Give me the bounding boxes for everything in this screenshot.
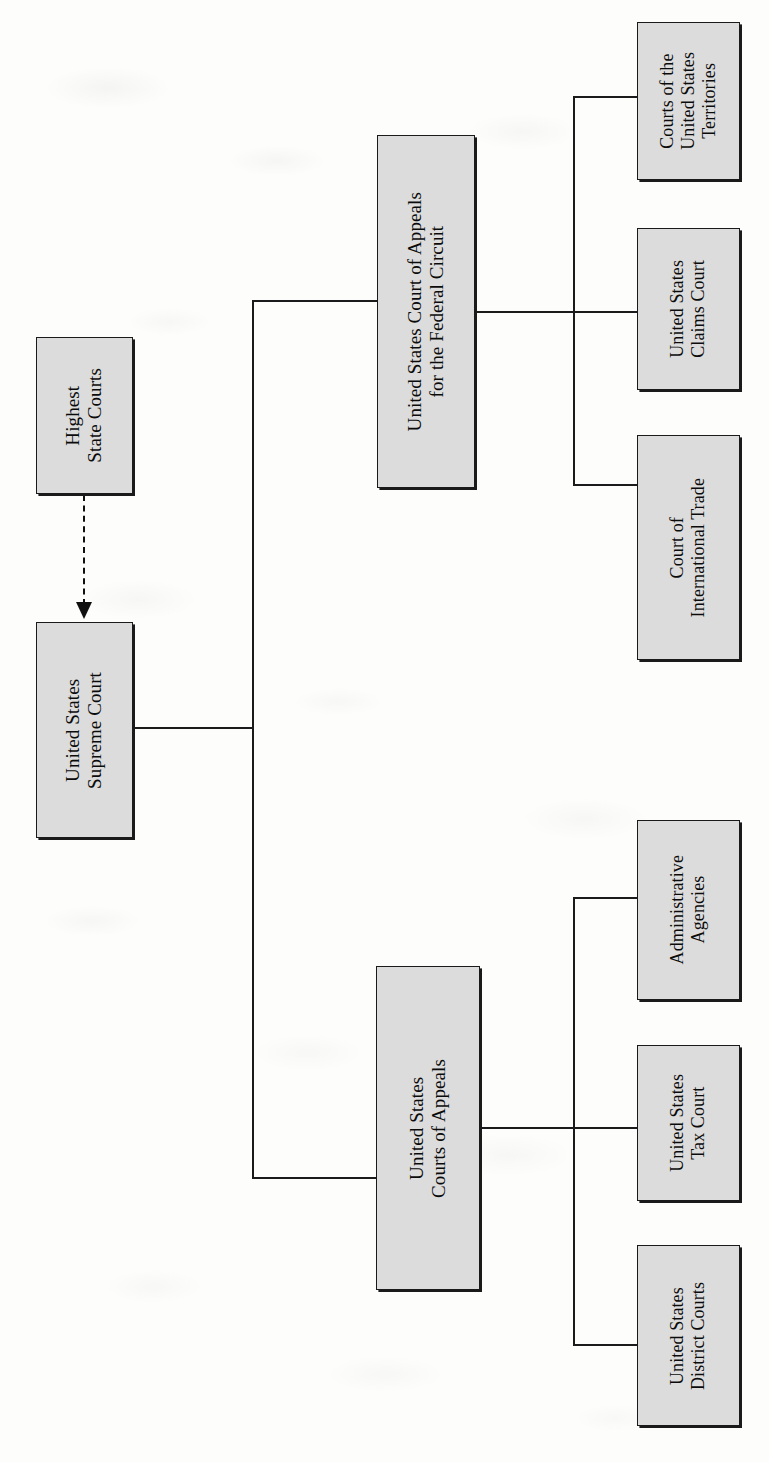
node-label: Highest State Courts [62,368,107,463]
node-label: United States Court of Appeals for the F… [404,192,449,431]
connector-bus-to-international-trade [573,484,638,486]
node-us-courts-of-appeals[interactable]: United States Courts of Appeals [376,966,480,1290]
node-label: Administrative Agencies [667,855,709,964]
connector-bus-to-administrative-agencies [573,897,638,899]
connector-upper-right-bus [573,96,575,486]
connector-bus-to-claims-court [573,311,638,313]
connector-trunk-to-courts-of-appeals [252,1177,378,1179]
node-us-tax-court[interactable]: United States Tax Court [637,1045,740,1201]
connector-trunk-to-federal-circuit [252,300,378,302]
node-highest-state-courts[interactable]: Highest State Courts [36,337,133,494]
node-us-supreme-court[interactable]: United States Supreme Court [36,622,133,838]
node-us-claims-court[interactable]: United States Claims Court [637,228,740,390]
node-court-of-international-trade[interactable]: Court of International Trade [637,435,740,660]
arrow-head-icon [76,602,92,619]
node-us-district-courts[interactable]: United States District Courts [637,1245,740,1426]
node-label: United States District Courts [667,1282,709,1390]
connector-state-to-supreme-dashed [83,495,85,605]
connector-bus-to-district-courts [573,1344,638,1346]
connector-supreme-to-trunk [133,727,254,729]
node-label: Court of International Trade [667,478,709,617]
court-system-diagram: Highest State Courts United States Supre… [0,0,769,1462]
node-administrative-agencies[interactable]: Administrative Agencies [637,820,740,1000]
connector-bus-to-tax-court [573,1127,638,1129]
connector-lower-right-bus [573,897,575,1346]
node-label: United States Courts of Appeals [406,1059,451,1198]
node-label: United States Supreme Court [62,672,107,789]
node-courts-of-us-territories[interactable]: Courts of the United States Territories [637,22,740,180]
node-federal-circuit-court-of-appeals[interactable]: United States Court of Appeals for the F… [377,135,475,488]
node-label: Courts of the United States Territories [657,52,721,150]
node-label: United States Tax Court [667,1074,709,1172]
connector-federal-circuit-to-bus [474,311,575,313]
connector-bus-to-territory-courts [573,96,638,98]
connector-trunk-vertical [252,300,254,1179]
node-label: United States Claims Court [667,260,709,358]
connector-courts-of-appeals-to-bus [479,1127,575,1129]
